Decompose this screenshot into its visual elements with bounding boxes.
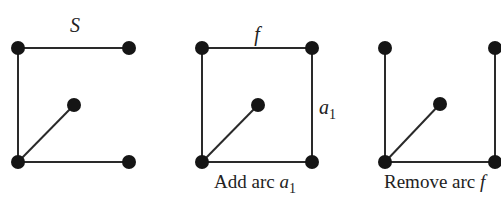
node (378, 41, 392, 55)
node (305, 155, 319, 169)
node (305, 41, 319, 55)
node (433, 97, 447, 111)
node (11, 155, 25, 169)
edge-diagonal (385, 104, 440, 162)
node (488, 41, 501, 55)
diagram-canvas: S f a1 Add arc a1 Remove arc f (0, 0, 501, 216)
edge-diagonal (18, 105, 74, 162)
node (195, 41, 209, 55)
caption-remove-arc: Remove arc f (384, 171, 488, 192)
node (67, 98, 81, 112)
node (122, 41, 136, 55)
node (122, 155, 136, 169)
node (11, 41, 25, 55)
panel-s: S (11, 14, 136, 169)
edge-diagonal (202, 105, 258, 162)
panel-remove-arc: Remove arc f (378, 41, 501, 192)
node (195, 155, 209, 169)
caption-add-arc: Add arc a1 (214, 171, 296, 196)
label-f: f (254, 23, 262, 46)
node (488, 155, 501, 169)
label-a1: a1 (319, 96, 336, 122)
node (378, 155, 392, 169)
panel-add-arc: f a1 Add arc a1 (195, 23, 336, 196)
node (251, 98, 265, 112)
label-s: S (70, 14, 80, 36)
